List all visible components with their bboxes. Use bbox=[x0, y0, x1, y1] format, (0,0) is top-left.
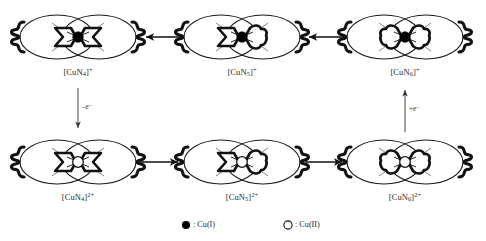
reaction-scheme-canvas bbox=[0, 0, 486, 241]
complex-cun6-2plus bbox=[339, 140, 472, 184]
complex-cun5-plus bbox=[176, 15, 309, 59]
label-oxidation-arrow: –e– bbox=[82, 102, 92, 111]
label-cun5-plus: [CuN5]+ bbox=[206, 66, 278, 77]
metal-center-cu1 bbox=[73, 32, 84, 43]
legend-item-cu1: : Cu(I) bbox=[193, 220, 215, 229]
legend-separator-cu1: : bbox=[193, 220, 195, 229]
label-cun6-plus: [CuN6]+ bbox=[369, 66, 441, 77]
complex-cun4-plus bbox=[12, 15, 145, 59]
label-cun4-2plus: [CuN4]2+ bbox=[42, 191, 114, 202]
label-cun5-2plus: [CuN5]2+ bbox=[206, 191, 278, 202]
metal-center-cu2 bbox=[237, 157, 248, 168]
legend-item-cu2: : Cu(II) bbox=[295, 220, 320, 229]
label-reduction-arrow: +e– bbox=[409, 104, 419, 113]
label-cun6-2plus: [CuN6]2+ bbox=[369, 191, 441, 202]
legend-filled-circle-icon bbox=[182, 221, 190, 229]
complex-cun4-2plus bbox=[12, 140, 145, 184]
legend-label-cu2: Cu(II) bbox=[299, 220, 319, 229]
metal-center-cu2 bbox=[400, 157, 411, 168]
label-cun4-plus: [CuN4]+ bbox=[42, 66, 114, 77]
legend-label-cu1: Cu(I) bbox=[197, 220, 215, 229]
complex-cun5-2plus bbox=[176, 140, 309, 184]
legend-separator-cu2: : bbox=[295, 220, 297, 229]
metal-center-cu2 bbox=[73, 157, 84, 168]
metal-center-cu1 bbox=[237, 32, 248, 43]
complex-cun6-plus bbox=[339, 15, 472, 59]
metal-center-cu1 bbox=[400, 32, 411, 43]
legend-open-circle-icon bbox=[284, 221, 292, 229]
